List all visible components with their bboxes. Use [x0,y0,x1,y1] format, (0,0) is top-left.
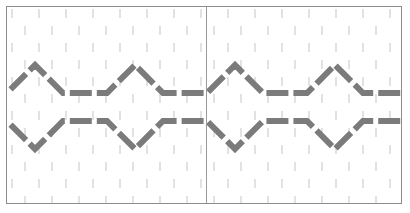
figure-stage [0,0,410,213]
center-vertical-divider [7,7,401,203]
canvas-frame [6,6,402,204]
center-divider-line [206,7,207,203]
